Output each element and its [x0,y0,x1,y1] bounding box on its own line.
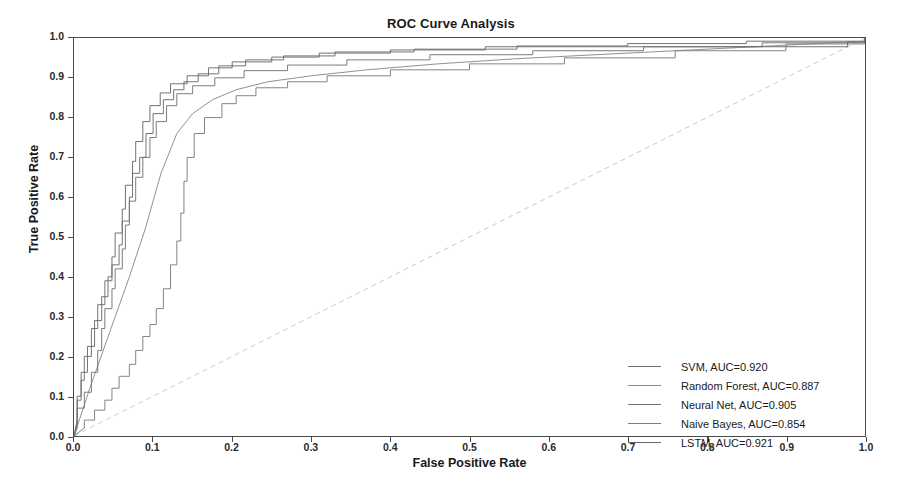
y-axis-label: True Positive Rate [27,69,41,329]
chart-legend: SVM, AUC=0.920Random Forest, AUC=0.887Ne… [628,357,848,452]
x-tick-label: 0.1 [132,441,172,453]
y-tick-label: 0.6 [18,190,64,202]
x-tick-mark [73,437,74,442]
legend-label: Random Forest, AUC=0.887 [681,380,820,392]
y-tick-label: 0.2 [18,350,64,362]
legend-swatch-icon [628,404,661,405]
y-tick-label: 0.3 [18,310,64,322]
y-tick-mark [68,237,73,238]
x-axis-label: False Positive Rate [73,456,866,470]
legend-swatch-icon [628,442,661,443]
legend-swatch-icon [628,423,661,424]
x-tick-mark [311,437,312,442]
x-tick-mark [390,437,391,442]
x-tick-mark [232,437,233,442]
x-tick-label: 0.6 [529,441,569,453]
y-tick-label: 0.4 [18,270,64,282]
x-tick-label: 0.3 [291,441,331,453]
x-tick-mark [549,437,550,442]
legend-label: Naive Bayes, AUC=0.854 [681,418,805,430]
x-tick-label: 0.2 [212,441,252,453]
roc-chart-figure: ROC Curve Analysis 0.00.10.20.30.40.50.6… [0,0,902,487]
y-tick-label: 0.1 [18,390,64,402]
y-tick-mark [68,317,73,318]
x-tick-label: 1.0 [846,441,886,453]
legend-item-naive-bayes[interactable]: Naive Bayes, AUC=0.854 [628,414,848,433]
x-tick-mark [152,437,153,442]
x-tick-label: 0.5 [450,441,490,453]
legend-item-neural-net[interactable]: Neural Net, AUC=0.905 [628,395,848,414]
x-tick-mark [470,437,471,442]
y-tick-label: 0.5 [18,230,64,242]
legend-item-random-forest[interactable]: Random Forest, AUC=0.887 [628,376,848,395]
y-tick-label: 0.9 [18,70,64,82]
x-tick-label: 0.0 [53,441,93,453]
y-tick-mark [68,197,73,198]
y-tick-mark [68,157,73,158]
y-tick-label: 0.7 [18,150,64,162]
y-tick-mark [68,117,73,118]
x-tick-mark [866,437,867,442]
y-tick-label: 0.8 [18,110,64,122]
legend-item-svm[interactable]: SVM, AUC=0.920 [628,357,848,376]
y-tick-label: 1.0 [18,30,64,42]
y-tick-mark [68,77,73,78]
y-tick-mark [68,277,73,278]
legend-swatch-icon [628,366,661,367]
x-tick-label: 0.4 [370,441,410,453]
legend-label: LSTM, AUC=0.921 [681,437,773,449]
legend-label: SVM, AUC=0.920 [681,361,768,373]
y-tick-mark [68,357,73,358]
chart-title: ROC Curve Analysis [0,16,902,31]
legend-item-lstm[interactable]: LSTM, AUC=0.921 [628,433,848,452]
y-tick-mark [68,397,73,398]
y-tick-mark [68,37,73,38]
legend-label: Neural Net, AUC=0.905 [681,399,796,411]
legend-swatch-icon [628,385,661,386]
